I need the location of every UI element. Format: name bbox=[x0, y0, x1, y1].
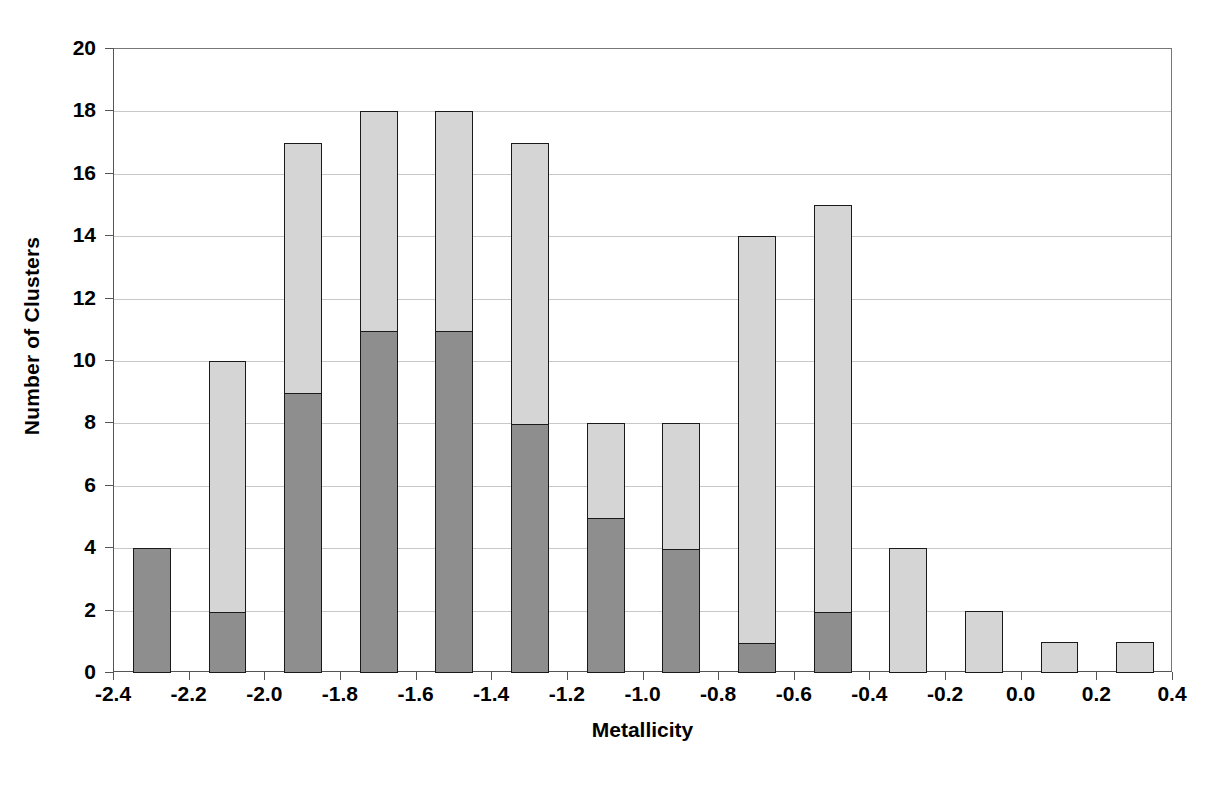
histogram-bar bbox=[284, 143, 322, 673]
x-tick-mark bbox=[567, 672, 568, 680]
histogram-bar bbox=[814, 205, 852, 673]
x-tick-mark bbox=[491, 672, 492, 680]
x-tick-label: -0.4 bbox=[851, 682, 887, 706]
y-tick-mark bbox=[105, 48, 114, 49]
x-tick-mark bbox=[869, 672, 870, 680]
histogram-bar bbox=[1116, 642, 1154, 673]
x-tick-label: -2.0 bbox=[246, 682, 282, 706]
y-tick-mark bbox=[105, 422, 114, 423]
x-tick-mark bbox=[416, 672, 417, 680]
bar-segment-light bbox=[1042, 643, 1078, 672]
bar-segment-dark bbox=[436, 331, 472, 672]
histogram-bar bbox=[662, 423, 700, 673]
bar-segment-light bbox=[436, 112, 472, 330]
bar-segment-dark bbox=[588, 518, 624, 672]
histogram-bar bbox=[511, 143, 549, 673]
y-tick-mark bbox=[105, 298, 114, 299]
x-tick-mark bbox=[945, 672, 946, 680]
x-tick-mark bbox=[264, 672, 265, 680]
gridline bbox=[114, 236, 1171, 237]
x-tick-label: 0.2 bbox=[1082, 682, 1111, 706]
gridline bbox=[114, 423, 1171, 424]
histogram-bar bbox=[360, 111, 398, 673]
x-tick-label: -0.6 bbox=[776, 682, 812, 706]
y-tick-label: 6 bbox=[26, 473, 96, 497]
bar-segment-light bbox=[1117, 643, 1153, 672]
y-tick-label: 20 bbox=[26, 36, 96, 60]
gridline bbox=[114, 486, 1171, 487]
histogram-bar bbox=[435, 111, 473, 673]
x-tick-label: -2.4 bbox=[95, 682, 131, 706]
x-tick-mark bbox=[1021, 672, 1022, 680]
x-tick-mark bbox=[189, 672, 190, 680]
gridline bbox=[114, 299, 1171, 300]
x-tick-mark bbox=[794, 672, 795, 680]
y-tick-mark bbox=[105, 485, 114, 486]
y-tick-label: 14 bbox=[26, 223, 96, 247]
bar-segment-dark bbox=[739, 643, 775, 672]
x-tick-label: -1.0 bbox=[624, 682, 660, 706]
x-tick-label: -0.8 bbox=[700, 682, 736, 706]
bar-segment-light bbox=[588, 424, 624, 518]
gridline bbox=[114, 111, 1171, 112]
histogram-bar bbox=[133, 548, 171, 673]
x-tick-mark bbox=[113, 672, 114, 680]
x-tick-mark bbox=[643, 672, 644, 680]
bar-segment-dark bbox=[361, 331, 397, 672]
x-tick-label: -1.6 bbox=[397, 682, 433, 706]
bar-segment-dark bbox=[285, 393, 321, 672]
bar-segment-light bbox=[966, 612, 1002, 672]
y-tick-label: 0 bbox=[26, 660, 96, 684]
x-tick-label: -1.2 bbox=[549, 682, 585, 706]
histogram-bar bbox=[965, 611, 1003, 673]
x-tick-label: -1.8 bbox=[322, 682, 358, 706]
x-axis-title: Metallicity bbox=[113, 718, 1172, 742]
y-tick-label: 4 bbox=[26, 535, 96, 559]
x-tick-mark bbox=[1096, 672, 1097, 680]
gridline bbox=[114, 361, 1171, 362]
bar-segment-light bbox=[739, 237, 775, 643]
y-tick-label: 18 bbox=[26, 98, 96, 122]
gridline bbox=[114, 174, 1171, 175]
bar-segment-light bbox=[361, 112, 397, 330]
histogram-bar bbox=[209, 361, 247, 673]
y-tick-label: 12 bbox=[26, 286, 96, 310]
x-tick-label: 0.4 bbox=[1157, 682, 1186, 706]
x-tick-label: -1.4 bbox=[473, 682, 509, 706]
bar-segment-light bbox=[815, 206, 851, 612]
x-tick-mark bbox=[718, 672, 719, 680]
histogram-bar bbox=[1041, 642, 1079, 673]
bar-segment-dark bbox=[134, 549, 170, 672]
x-tick-mark bbox=[340, 672, 341, 680]
plot-area bbox=[113, 48, 1172, 672]
y-tick-mark bbox=[105, 360, 114, 361]
y-tick-label: 2 bbox=[26, 598, 96, 622]
x-tick-label: 0.0 bbox=[1006, 682, 1035, 706]
y-tick-mark bbox=[105, 110, 114, 111]
y-tick-label: 8 bbox=[26, 410, 96, 434]
gridline bbox=[114, 611, 1171, 612]
y-tick-mark bbox=[105, 235, 114, 236]
y-tick-mark bbox=[105, 610, 114, 611]
x-tick-label: -2.2 bbox=[171, 682, 207, 706]
y-tick-label: 10 bbox=[26, 348, 96, 372]
metallicity-histogram-figure: Number of Clusters 02468101214161820 -2.… bbox=[0, 0, 1206, 792]
y-tick-label: 16 bbox=[26, 161, 96, 185]
bar-segment-dark bbox=[210, 612, 246, 672]
y-tick-mark bbox=[105, 547, 114, 548]
x-tick-label: -0.2 bbox=[927, 682, 963, 706]
bar-segment-light bbox=[512, 144, 548, 425]
bar-segment-dark bbox=[815, 612, 851, 672]
histogram-bar bbox=[738, 236, 776, 673]
gridline bbox=[114, 548, 1171, 549]
histogram-bar bbox=[587, 423, 625, 673]
bar-segment-light bbox=[890, 549, 926, 672]
bar-segment-dark bbox=[512, 424, 548, 672]
histogram-bar bbox=[889, 548, 927, 673]
x-tick-mark bbox=[1172, 672, 1173, 680]
y-axis-title-text: Number of Clusters bbox=[20, 237, 44, 435]
y-tick-mark bbox=[105, 173, 114, 174]
bar-segment-dark bbox=[663, 549, 699, 672]
bar-segment-light bbox=[663, 424, 699, 549]
bar-segment-light bbox=[285, 144, 321, 394]
